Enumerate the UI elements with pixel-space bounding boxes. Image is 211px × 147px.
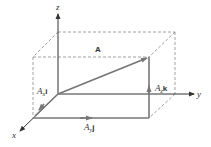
x-component-label: Axi bbox=[36, 86, 47, 97]
y-axis-label: y bbox=[196, 89, 201, 99]
vector-a-label: A bbox=[95, 45, 101, 54]
x-component-vector bbox=[35, 94, 58, 116]
axes bbox=[20, 14, 194, 131]
y-component-label: Ayj bbox=[83, 122, 94, 133]
vector-diagram: z y x A Axi Azk Ayj bbox=[0, 0, 211, 147]
x-axis-label: x bbox=[11, 130, 16, 140]
vector-a bbox=[58, 58, 147, 94]
z-component-label: Azk bbox=[154, 83, 168, 94]
z-axis-label: z bbox=[55, 2, 60, 12]
component-vectors bbox=[33, 57, 149, 118]
